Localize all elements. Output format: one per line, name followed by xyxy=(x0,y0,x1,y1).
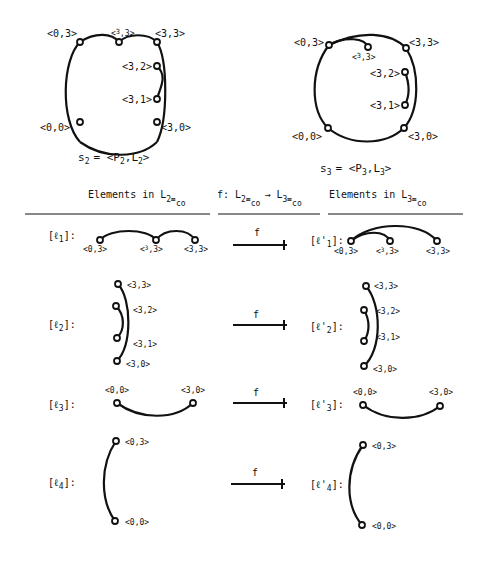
edge-s3-left xyxy=(315,45,329,128)
edge-s3-inner-right xyxy=(405,72,409,105)
point-l3p-3-0 xyxy=(437,403,443,409)
edge-s3-bottom xyxy=(328,128,404,142)
point-s2-3-2 xyxy=(154,63,160,69)
point-l4-0-0 xyxy=(112,518,118,524)
label-s3-3-3: <3,3> xyxy=(409,37,439,48)
point-s2-3-1 xyxy=(154,96,160,102)
point-l2-3-0 xyxy=(114,358,120,364)
point-l2-3-1 xyxy=(114,335,120,341)
structure-s3: <0,3> <3,3> <3,3> <3,2> <3,1> <0,0> <3,0… xyxy=(292,35,439,177)
label-s2-3-1: <3,1> xyxy=(122,94,152,105)
label-s2-3-3: <3,3> xyxy=(155,28,185,39)
label-l1p-3-3: <3,3> xyxy=(426,247,450,256)
point-l1-0-3 xyxy=(97,237,103,243)
table-row-4: [ℓ4]: <0,3> <0,0> f [ℓ'4]: <0,3> <0,0> xyxy=(48,438,396,531)
label-l2p-3-1: <3,1> xyxy=(376,333,400,342)
point-s3-3-0 xyxy=(401,125,407,131)
point-l3-3-0 xyxy=(190,400,196,406)
label-l3p-3-0: <3,0> xyxy=(429,388,453,397)
point-l3-0-0 xyxy=(114,400,120,406)
point-l4p-0-0 xyxy=(359,522,365,528)
label-l3p-0-0: <0,0> xyxy=(353,388,377,397)
point-l1p-half-3 xyxy=(387,238,393,244)
point-s3-half-3 xyxy=(365,44,371,50)
table-row-1: [ℓ1]: <0,3> <3,3> <3,3> f [ℓ'1]: <0,3> <… xyxy=(48,226,450,256)
point-s3-3-1 xyxy=(402,102,408,108)
label-l2p-3-0: <3,0> xyxy=(373,365,397,374)
label-l1-half-3: <3,3> xyxy=(140,244,163,254)
point-l1p-3-3 xyxy=(434,238,440,244)
table-row-3: [ℓ3]: <0,0> <3,0> f [ℓ'3]: <0,0> <3,0> xyxy=(48,386,453,418)
edge-l2p-outer xyxy=(364,286,378,366)
point-s2-half-3 xyxy=(116,39,122,45)
label-s3-3-0: <3,0> xyxy=(408,131,438,142)
label-l1p-half-3: <3,3> xyxy=(376,246,399,256)
point-l1-half-3 xyxy=(153,237,159,243)
label-l4: [ℓ4]: xyxy=(48,477,76,491)
label-l2-3-2: <3,2> xyxy=(133,306,157,315)
point-l2p-3-3 xyxy=(363,283,369,289)
edge-l1p-b xyxy=(351,233,390,241)
point-s3-3-2 xyxy=(402,69,408,75)
label-l2p-3-2: <3,2> xyxy=(376,307,400,316)
label-l4-0-3: <0,3> xyxy=(125,438,149,447)
header-mid: f: L2≡co→ L3≡co xyxy=(217,189,302,208)
table-row-2: [ℓ2]: <3,3> <3,2> <3,1> <3,0> f [ℓ'2]: <… xyxy=(48,281,400,374)
point-l2-3-2 xyxy=(113,303,119,309)
label-s3-3-1: <3,1> xyxy=(370,100,400,111)
label-s3-0-0: <0,0> xyxy=(292,131,322,142)
map-f-1: f xyxy=(254,227,260,238)
label-l2p-3-3: <3,3> xyxy=(374,282,398,291)
point-s2-0-3 xyxy=(77,39,83,45)
edge-l2p-inner xyxy=(364,310,369,341)
edge-s2-inner xyxy=(157,66,163,99)
label-l1p-0-3: <0,3> xyxy=(334,247,358,256)
table-header: Elements in L2≡co f: L2≡co→ L3≡co Elemen… xyxy=(25,189,463,214)
point-s2-3-0 xyxy=(154,119,160,125)
label-s2-3-2: <3,2> xyxy=(122,61,152,72)
edge-s3-inner-top xyxy=(329,39,368,47)
structure-s2: <0,3> <3,3> <3,3> <3,2> <3,1> <0,0> <3,0… xyxy=(40,28,191,166)
point-l2p-3-0 xyxy=(361,363,367,369)
point-l2-3-3 xyxy=(115,281,121,287)
edge-l3p xyxy=(363,405,440,418)
point-s3-0-0 xyxy=(325,125,331,131)
point-l4p-0-3 xyxy=(360,442,366,448)
point-l1p-0-3 xyxy=(348,238,354,244)
point-l4-0-3 xyxy=(113,438,119,444)
label-l4-prime: [ℓ'4]: xyxy=(310,479,344,493)
label-l4p-0-0: <0,0> xyxy=(372,522,396,531)
point-s2-3-3 xyxy=(154,39,160,45)
map-f-3: f xyxy=(253,387,259,398)
edge-l4p xyxy=(349,445,363,525)
label-l1-0-3: <0,3> xyxy=(83,245,107,254)
label-l3-0-0: <0,0> xyxy=(105,386,129,395)
edge-l1-b xyxy=(156,231,195,240)
edge-l1-a xyxy=(100,231,156,240)
label-l4p-0-3: <0,3> xyxy=(372,442,396,451)
point-l1-3-3 xyxy=(192,237,198,243)
label-s2-half-3: <3,3> xyxy=(111,28,135,38)
point-l3p-0-0 xyxy=(360,402,366,408)
label-l4-0-0: <0,0> xyxy=(125,518,149,527)
edge-l4 xyxy=(104,441,116,521)
label-l1-3-3: <3,3> xyxy=(184,245,208,254)
header-left: Elements in L2≡co xyxy=(88,189,186,208)
label-l2-3-3: <3,3> xyxy=(127,281,151,290)
label-l3-prime: [ℓ'3]: xyxy=(310,399,344,413)
label-l2: [ℓ2]: xyxy=(48,319,76,333)
label-s2-0-0: <0,0> xyxy=(40,122,70,133)
header-right: Elements in L3≡co xyxy=(329,189,427,208)
map-f-2: f xyxy=(253,309,259,320)
label-l1: [ℓ1]: xyxy=(48,230,76,244)
point-l2p-3-2 xyxy=(361,307,367,313)
edge-l2-inner xyxy=(116,306,123,338)
label-s3-0-3: <0,3> xyxy=(294,37,324,48)
map-f-4: f xyxy=(252,467,258,478)
caption-s3: s3= <P3,L3> xyxy=(320,162,392,177)
edge-l3 xyxy=(117,403,193,416)
label-l2-3-0: <3,0> xyxy=(126,360,150,369)
label-s2-3-0: <3,0> xyxy=(161,122,191,133)
point-l2p-3-1 xyxy=(361,338,367,344)
label-l3-3-0: <3,0> xyxy=(181,386,205,395)
